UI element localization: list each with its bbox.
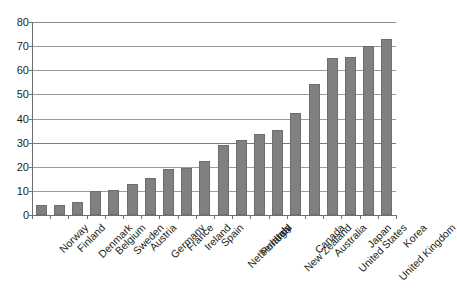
x-tick-mark (141, 215, 142, 219)
x-tick-mark (232, 215, 233, 219)
x-tick-mark (32, 215, 33, 219)
x-tick-mark (287, 215, 288, 219)
y-tick-mark-70 (29, 46, 33, 47)
x-tick-mark (269, 215, 270, 219)
x-tick-mark (323, 215, 324, 219)
x-tick-mark (178, 215, 179, 219)
y-tick-mark-30 (29, 143, 33, 144)
y-tick-mark-20 (29, 167, 33, 168)
y-tick-mark-80 (29, 22, 33, 23)
x-tick-mark (196, 215, 197, 219)
x-tick-mark (305, 215, 306, 219)
x-tick-mark (341, 215, 342, 219)
x-tick-mark (105, 215, 106, 219)
x-tick-mark (68, 215, 69, 219)
x-tick-mark (159, 215, 160, 219)
x-tick-mark (50, 215, 51, 219)
x-tick-mark (214, 215, 215, 219)
y-tick-mark-10 (29, 191, 33, 192)
y-tick-mark-50 (29, 94, 33, 95)
y-tick-mark-40 (29, 119, 33, 120)
x-tick-mark (378, 215, 379, 219)
x-tick-mark (360, 215, 361, 219)
x-tick-mark (87, 215, 88, 219)
x-tick-mark (396, 215, 397, 219)
x-tick-mark (250, 215, 251, 219)
y-tick-mark-60 (29, 70, 33, 71)
x-tick-mark (123, 215, 124, 219)
